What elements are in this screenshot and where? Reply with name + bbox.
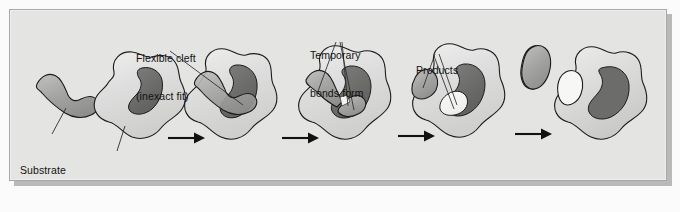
arrow-2 [282, 133, 319, 144]
callout-temporary-bonds-line1: Temporary [310, 49, 364, 62]
substrate-shape-free [36, 74, 98, 117]
diagram-panel: Flexible cleft (inexact fit) Temporary b… [9, 9, 667, 181]
label-enzyme-resumes: Enzyme resumes original shape [571, 156, 654, 181]
callout-flexible-cleft-line1: Flexible cleft [136, 52, 196, 65]
callout-temporary-bonds: Temporary bonds form [310, 24, 364, 124]
leader-line-substrate [52, 108, 66, 134]
label-initial-contact: Initial contact [179, 156, 242, 181]
enzyme-induced-fit-figure: Flexible cleft (inexact fit) Temporary b… [0, 0, 680, 212]
callout-temporary-bonds-line2: bonds form [310, 87, 364, 100]
label-enzyme: Enzyme [93, 156, 132, 181]
arrow-4 [515, 129, 552, 140]
callout-products: Products [416, 39, 458, 102]
callout-flexible-cleft-line2: (inexact fit) [136, 90, 196, 103]
callout-flexible-cleft: Flexible cleft (inexact fit) [136, 27, 196, 127]
label-shape-changes: Shape changes, substrate splits [285, 156, 362, 181]
arrow-1 [168, 133, 205, 144]
stage-5-enzyme-resumes [522, 46, 647, 140]
label-products-repelled: Products repelled [433, 156, 516, 181]
label-substrate: Substrate [20, 139, 66, 181]
arrow-3 [398, 131, 435, 142]
label-substrate-line1: Substrate [20, 164, 66, 177]
callout-products-line1: Products [416, 64, 458, 77]
